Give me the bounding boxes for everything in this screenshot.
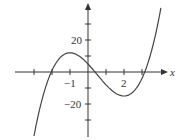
function-graph: x −1 2 20 −20: [0, 0, 179, 140]
y-tick-label-neg20: −20: [64, 98, 82, 110]
y-axis-arrow-icon: [85, 3, 91, 10]
x-tick-label-2: 2: [121, 77, 127, 89]
y-tick-label-20: 20: [71, 34, 83, 46]
x-axis-label: x: [169, 66, 175, 78]
x-tick-label-neg1: −1: [64, 77, 76, 89]
x-axis-arrow-icon: [161, 69, 168, 75]
